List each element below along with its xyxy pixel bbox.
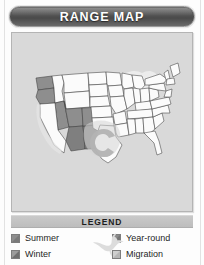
page-title: RANGE MAP [60, 10, 145, 24]
legend-item-summer[interactable]: Summer [11, 230, 99, 246]
legend-label-summer: Summer [25, 234, 59, 243]
legend-item-winter[interactable]: Winter [11, 246, 99, 262]
summer-swatch-icon [11, 234, 20, 243]
legend-label-winter: Winter [25, 250, 51, 259]
page-rule-right [200, 0, 201, 265]
legend-item-year-round[interactable]: Year-round [112, 230, 200, 246]
legend-label-migration: Migration [126, 250, 163, 259]
legend-body: Summer Winter Year-round Migration [11, 230, 197, 262]
range-map-page: RANGE MAP [0, 0, 204, 265]
page-rule-left [4, 0, 5, 265]
legend-header-bar: LEGEND [11, 215, 193, 228]
range-map-title-banner: RANGE MAP [9, 6, 195, 27]
us-range-map [12, 33, 193, 212]
map-panel [11, 32, 193, 212]
winter-swatch-icon [11, 250, 20, 259]
migration-swatch-icon [112, 250, 121, 259]
legend-title: LEGEND [82, 217, 123, 227]
legend-column-left: Summer Winter [11, 230, 99, 262]
legend-item-migration[interactable]: Migration [112, 246, 200, 262]
year-round-swatch-icon [112, 234, 121, 243]
legend-label-year-round: Year-round [126, 234, 170, 243]
legend-column-right: Year-round Migration [112, 230, 200, 262]
